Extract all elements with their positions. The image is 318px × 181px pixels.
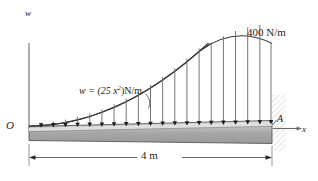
load-function-label: w = (25 x2)N/m xyxy=(79,85,142,96)
load-function-suffix: )N/m xyxy=(121,85,142,96)
x-axis-label: x xyxy=(302,125,306,134)
figure-canvas: w O x A 400 N/m w = (25 x2)N/m 4 m xyxy=(0,0,318,181)
equation-leader-line xyxy=(146,94,150,109)
point-a-label: A xyxy=(277,114,283,124)
load-function-prefix: w = (25 x xyxy=(79,85,118,96)
peak-intensity-label: 400 N/m xyxy=(247,27,286,38)
w-axis-label: w xyxy=(25,9,31,18)
span-dimension-label: 4 m xyxy=(141,150,158,161)
origin-label: O xyxy=(6,120,14,131)
